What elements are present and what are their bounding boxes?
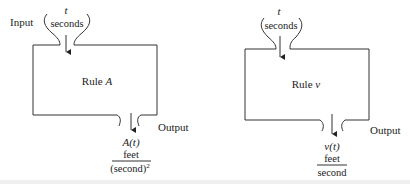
rule-a-input-label: Input [10,16,33,28]
rule-v-unit-denominator: second [317,167,347,178]
rule-a-output-curve-right [138,115,141,126]
rule-a-unit-denominator: (second)2 [110,162,150,175]
rule-v-input-unit: seconds [264,20,297,31]
rule-a-output-curve-left [117,115,120,126]
rule-v-input-variable: t [277,5,281,17]
rule-a-input-unit: seconds [50,18,83,29]
rule-v-output-label: Output [370,124,401,136]
rule-a-output-expression: A(t) [121,136,139,149]
rule-a-unit-numerator: feet [123,149,139,160]
rule-v-unit-numerator: feet [324,153,340,164]
rule-v-output-curve-right [342,120,345,131]
rule-v-output-expression: v(t) [324,140,340,153]
rule-v-machine: t seconds Rule v Output v(t) feet second [245,5,401,178]
function-machine-diagrams: Input t seconds Rule A Output A(t) feet … [0,0,410,184]
rule-a-output-label: Output [158,121,189,133]
rule-a-input-variable: t [64,4,68,16]
bottom-band [0,180,410,184]
rule-v-title: Rule v [292,78,321,90]
rule-v-output-curve-left [320,120,323,131]
rule-a-title: Rule A [82,75,113,87]
rule-a-machine: Input t seconds Rule A Output A(t) feet … [10,4,189,175]
